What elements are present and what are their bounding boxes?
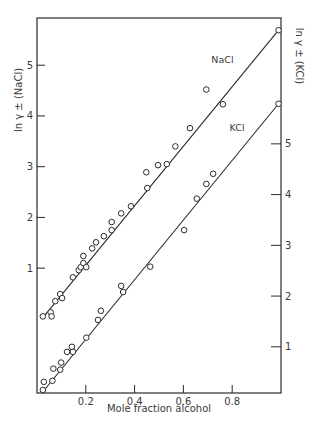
nacl-data-point (204, 87, 210, 93)
y-left-tick-label: 3 (27, 161, 33, 172)
nacl-data-point (128, 203, 134, 209)
kcl-data-point (118, 283, 124, 289)
kcl-data-point (41, 379, 47, 385)
nacl-data-point (187, 125, 193, 131)
nacl-data-point (83, 264, 89, 270)
kcl-fit-line (42, 104, 279, 393)
kcl-data-point (210, 171, 216, 177)
kcl-data-point (58, 360, 64, 366)
nacl-data-point (109, 227, 115, 233)
nacl-data-point (101, 233, 107, 239)
kcl-data-point (95, 317, 101, 323)
kcl-data-point (276, 101, 282, 107)
nacl-data-point (164, 161, 170, 167)
nacl-data-point (155, 162, 161, 168)
nacl-data-point (49, 314, 55, 320)
nacl-data-point (144, 169, 150, 175)
chart-svg: 0.20.40.60.8 12345 12345 NaClKCl Mole fr… (0, 0, 316, 433)
y-right-tick-label: 1 (285, 341, 291, 352)
nacl-data-point (220, 101, 226, 107)
nacl-data-point (89, 246, 95, 252)
kcl-data-point (204, 181, 210, 187)
fit-lines (42, 30, 279, 393)
kcl-series-label: KCl (230, 122, 245, 133)
kcl-data-point (57, 367, 63, 373)
y-right-tick-label: 3 (285, 240, 291, 251)
kcl-data-point (70, 349, 76, 355)
kcl-data-point (64, 349, 70, 355)
nacl-data-point (53, 298, 59, 304)
nacl-data-point (276, 27, 282, 33)
kcl-data-point (98, 308, 104, 314)
nacl-fit-line (42, 30, 279, 319)
nacl-data-point (59, 295, 65, 301)
y-left-tick-label: 2 (27, 212, 33, 223)
nacl-data-point (81, 253, 87, 259)
kcl-data-point (40, 387, 46, 393)
x-tick-label: 0.8 (224, 396, 240, 407)
y-axis-left-label: ln γ ± (NaCl) (13, 68, 24, 132)
plot-frame (37, 18, 281, 393)
kcl-data-point (83, 335, 89, 341)
kcl-data-point (51, 366, 57, 372)
nacl-data-point (93, 239, 99, 245)
y-right-tick-label: 2 (285, 291, 291, 302)
y-axis-right-label: ln γ ± (KCl) (294, 28, 305, 85)
nacl-data-point (40, 314, 46, 320)
y-right-tick-label: 5 (285, 138, 291, 149)
nacl-series-label: NaCl (211, 54, 233, 65)
nacl-data-point (109, 219, 115, 225)
kcl-data-point (50, 378, 56, 384)
x-tick-label: 0.2 (78, 396, 94, 407)
kcl-data-point (147, 264, 153, 270)
kcl-data-point (194, 196, 200, 202)
y-axis-left: 12345 (27, 60, 45, 274)
y-left-tick-label: 1 (27, 263, 33, 274)
kcl-data-point (181, 227, 187, 233)
y-right-tick-label: 4 (285, 189, 291, 200)
y-left-tick-label: 5 (27, 60, 33, 71)
series-labels: NaClKCl (211, 54, 244, 132)
x-axis-label: Mole fraction alcohol (107, 403, 211, 414)
kcl-data-point (120, 289, 126, 295)
nacl-data-point (70, 275, 76, 281)
y-left-tick-label: 4 (27, 110, 33, 121)
nacl-data-point (118, 211, 124, 217)
nacl-data-point (173, 144, 179, 150)
data-points (40, 27, 281, 392)
nacl-data-point (144, 185, 150, 191)
